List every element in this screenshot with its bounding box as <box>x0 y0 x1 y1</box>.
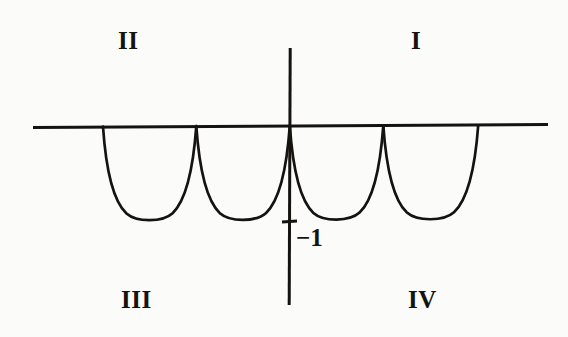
y-axis-tick-label-minus-one: −1 <box>296 225 323 250</box>
y-axis-line <box>289 48 290 305</box>
y-axis-tick-minus-one <box>282 221 297 222</box>
quadrant-label-1: I <box>411 28 421 53</box>
quadrant-label-3: III <box>121 287 152 312</box>
figure-canvas: II I III IV −1 <box>0 0 568 337</box>
plot-svg <box>0 0 568 337</box>
quadrant-label-4: IV <box>408 287 437 312</box>
quadrant-label-2: II <box>118 28 138 53</box>
